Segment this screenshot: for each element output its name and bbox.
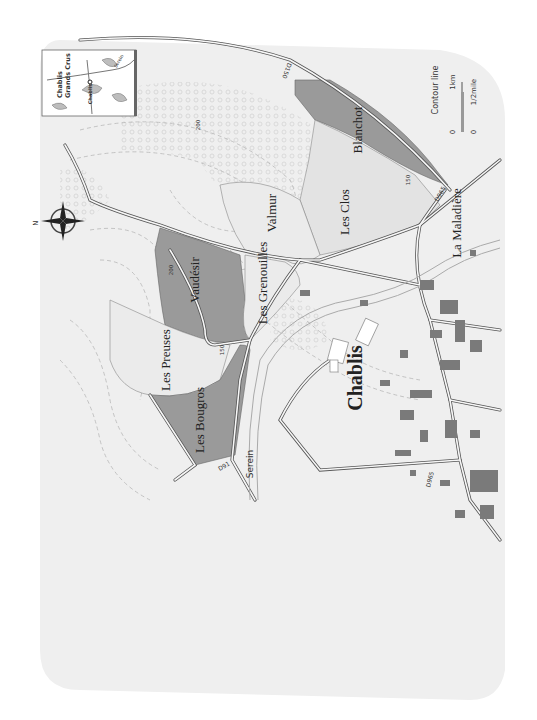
legend-contour-label: Contour line bbox=[431, 65, 440, 114]
contour-label-200-a: 200 bbox=[195, 119, 201, 130]
contour-label-200-b: 200 bbox=[168, 264, 174, 275]
label-serein: Serein bbox=[245, 450, 255, 479]
label-chablis: Chablis bbox=[344, 345, 366, 411]
label-valmur: Valmur bbox=[264, 193, 279, 232]
label-blanchot: Blanchot bbox=[350, 106, 365, 153]
inset-title-line1: Chablis bbox=[56, 71, 64, 98]
label-les-clos: Les Clos bbox=[337, 189, 352, 235]
scale-km-1: 1km bbox=[449, 74, 457, 90]
label-vaudesir: Vaudésir bbox=[187, 257, 202, 303]
scale-km-0: 0 bbox=[449, 130, 457, 134]
contour-label-150-a: 150 bbox=[405, 174, 411, 185]
label-les-bougros: Les Bougros bbox=[192, 387, 207, 453]
label-la-maladiere: La Maladière bbox=[449, 188, 464, 258]
inset-town-label: Chablis bbox=[87, 84, 93, 105]
scale-mi-1: 1/2mile bbox=[470, 79, 478, 105]
chablis-grands-crus-map: Blanchot Les Clos Valmur Vaudésir Les Gr… bbox=[0, 0, 537, 720]
label-les-preuses: Les Preuses bbox=[158, 329, 173, 391]
contour-label-150-b: 150 bbox=[219, 344, 225, 355]
inset-title-line2: Grands Crus bbox=[64, 53, 72, 98]
label-les-grenouilles: Les Grenouilles bbox=[255, 242, 270, 325]
inset-map: Chablis Grands Crus Chablis Serein bbox=[42, 50, 137, 116]
compass-north-label: N bbox=[32, 220, 40, 225]
scale-mi-0: 0 bbox=[470, 130, 478, 134]
